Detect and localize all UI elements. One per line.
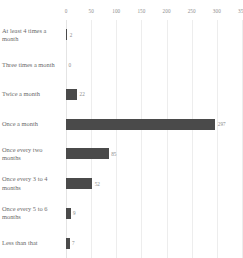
bar-container: 297 [66, 109, 226, 139]
bar-container: 22 [66, 80, 85, 110]
x-tick-label-200: 200 [163, 8, 171, 14]
x-tick-label-0: 0 [65, 8, 68, 14]
bar-value-label: 9 [73, 210, 76, 216]
bar-row: Three times a month0 [0, 50, 243, 80]
bar-chart: 050100150200250300350 At least 4 times a… [0, 0, 243, 258]
bar-value-label: 0 [69, 62, 72, 68]
bar[interactable] [66, 208, 71, 219]
bar[interactable] [66, 178, 92, 189]
bar-container: 7 [66, 228, 75, 258]
bar-value-label: 2 [70, 32, 73, 38]
x-tick-label-150: 150 [137, 8, 145, 14]
category-label: Three times a month [2, 61, 62, 69]
bar-container: 0 [66, 50, 71, 80]
bar-row: Twice a month22 [0, 80, 243, 110]
bar-value-label: 297 [218, 121, 226, 127]
x-tick-label-250: 250 [188, 8, 196, 14]
bar-container: 9 [66, 199, 76, 229]
bar[interactable] [66, 89, 77, 100]
bar-container: 52 [66, 169, 100, 199]
category-label: Once every two months [2, 146, 62, 162]
bar[interactable] [66, 238, 70, 249]
bar-row: Once a month297 [0, 109, 243, 139]
category-label: Once a month [2, 120, 62, 128]
bar[interactable] [66, 148, 109, 159]
category-label: Twice a month [2, 90, 62, 98]
category-label: Once every 5 to 6 months [2, 205, 62, 221]
category-label: At least 4 times a month [2, 27, 62, 43]
bar-value-label: 85 [111, 151, 116, 157]
category-label: Less than that [2, 239, 62, 247]
category-label: Once every 3 to 4 months [2, 175, 62, 191]
x-tick-label-300: 300 [213, 8, 221, 14]
bar-row: Once every two months85 [0, 139, 243, 169]
bar-value-label: 52 [95, 181, 100, 187]
bar-value-label: 7 [72, 240, 75, 246]
x-tick-label-100: 100 [112, 8, 120, 14]
bar-container: 85 [66, 139, 116, 169]
bar-row: Less than that7 [0, 228, 243, 258]
bar-value-label: 22 [80, 91, 85, 97]
bar[interactable] [66, 119, 215, 130]
x-tick-label-50: 50 [88, 8, 93, 14]
bar-row: Once every 3 to 4 months52 [0, 169, 243, 199]
bar[interactable] [66, 29, 67, 40]
bar-row: At least 4 times a month2 [0, 20, 243, 50]
bar-container: 2 [66, 20, 72, 50]
bar-row: Once every 5 to 6 months9 [0, 199, 243, 229]
x-tick-label-350: 350 [238, 8, 243, 14]
